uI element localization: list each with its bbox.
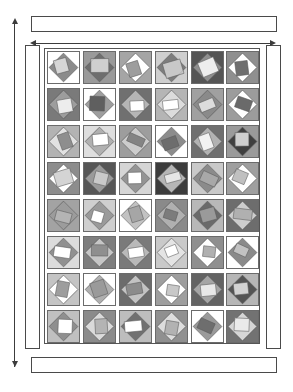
- bottom-border-strip: [31, 357, 277, 373]
- quilt-block: [119, 125, 152, 158]
- quilt-block: [119, 88, 152, 121]
- quilt-block: [226, 51, 259, 84]
- quilt-block: [191, 310, 224, 343]
- quilt-block: [47, 88, 80, 121]
- top-border-strip: [31, 16, 277, 32]
- quilt-block: [191, 236, 224, 269]
- dimension-arrow-right-icon: [270, 40, 276, 46]
- quilt-block: [119, 51, 152, 84]
- quilt-block: [191, 273, 224, 306]
- quilt-block-row: [45, 310, 259, 343]
- quilt-block: [155, 51, 188, 84]
- quilt-block: [226, 199, 259, 232]
- quilt-block: [119, 162, 152, 195]
- height-dimension-line: [14, 22, 15, 367]
- quilt-block: [155, 310, 188, 343]
- dimension-arrow-down-icon: [12, 361, 18, 367]
- dimension-arrow-up-icon: [12, 18, 18, 24]
- quilt-block: [83, 273, 116, 306]
- quilt-block: [119, 199, 152, 232]
- quilt-center-field: [44, 48, 260, 344]
- quilt-block: [119, 273, 152, 306]
- quilt-block: [47, 273, 80, 306]
- quilt-block: [226, 273, 259, 306]
- quilt-block: [191, 162, 224, 195]
- quilt-block-row: [45, 51, 259, 84]
- quilt-block: [47, 125, 80, 158]
- quilt-block: [155, 236, 188, 269]
- quilt-block: [83, 199, 116, 232]
- quilt-block: [119, 310, 152, 343]
- quilt-block-row: [45, 125, 259, 158]
- quilt-block-row: [45, 236, 259, 269]
- quilt-block: [47, 199, 80, 232]
- left-border-strip: [25, 45, 40, 349]
- quilt-block: [226, 162, 259, 195]
- right-border-strip: [266, 45, 281, 349]
- quilt-block: [83, 51, 116, 84]
- quilt-block: [83, 162, 116, 195]
- quilt-block-row: [45, 162, 259, 195]
- quilt-block: [155, 88, 188, 121]
- quilt-block: [47, 162, 80, 195]
- quilt-block: [226, 125, 259, 158]
- quilt-block: [191, 199, 224, 232]
- quilt-block: [83, 236, 116, 269]
- quilt-block: [119, 236, 152, 269]
- quilt-block-row: [45, 88, 259, 121]
- width-dimension-line: [33, 43, 273, 44]
- quilt-block: [83, 88, 116, 121]
- dimension-arrow-left-icon: [30, 40, 36, 46]
- quilt-block-row: [45, 273, 259, 306]
- quilt-block: [191, 51, 224, 84]
- quilt-block: [83, 310, 116, 343]
- quilt-block: [155, 199, 188, 232]
- quilt-block: [47, 310, 80, 343]
- quilt-block: [83, 125, 116, 158]
- quilt-block: [226, 310, 259, 343]
- quilt-block: [155, 162, 188, 195]
- quilt-block: [226, 88, 259, 121]
- quilt-block: [155, 125, 188, 158]
- quilt-block: [47, 51, 80, 84]
- quilt-block-row: [45, 199, 259, 232]
- quilt-block: [191, 125, 224, 158]
- quilt-layout-diagram: [0, 0, 293, 392]
- quilt-block: [47, 236, 80, 269]
- quilt-block: [155, 273, 188, 306]
- quilt-block: [226, 236, 259, 269]
- quilt-block: [191, 88, 224, 121]
